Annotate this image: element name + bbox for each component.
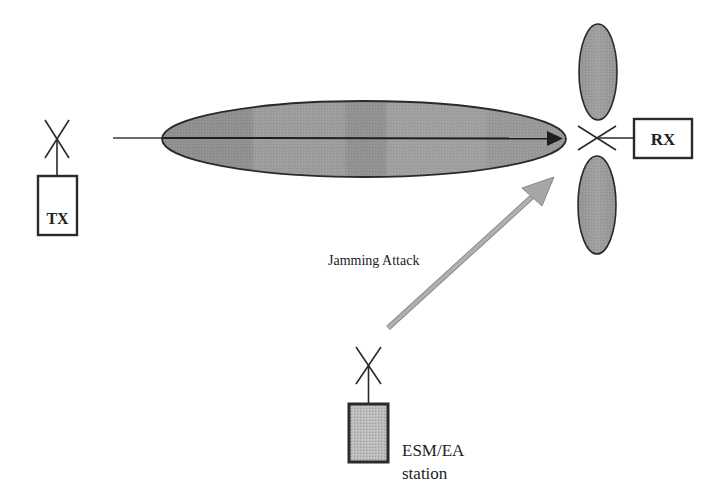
beam-direction-arrow	[163, 138, 548, 139]
rx-label: RX	[651, 130, 676, 149]
tx-label: TX	[46, 210, 69, 227]
jammer-label-line2: station	[402, 464, 448, 483]
upper-side-lobe	[579, 24, 617, 120]
jamming-diagram: TX RX	[0, 0, 720, 501]
receiver: RX	[578, 119, 692, 158]
tx-antenna-icon	[45, 120, 69, 176]
rx-antenna-icon	[578, 126, 634, 150]
jammer-station: ESM/EA station	[349, 347, 465, 483]
jammer-label-line1: ESM/EA	[402, 441, 465, 460]
jammer-antenna-icon	[356, 347, 381, 403]
jamming-attack-label: Jamming Attack	[328, 253, 419, 268]
main-beam	[162, 101, 566, 177]
lower-side-lobe	[578, 156, 616, 254]
jammer-box	[349, 404, 388, 462]
transmitter: TX	[38, 120, 77, 235]
